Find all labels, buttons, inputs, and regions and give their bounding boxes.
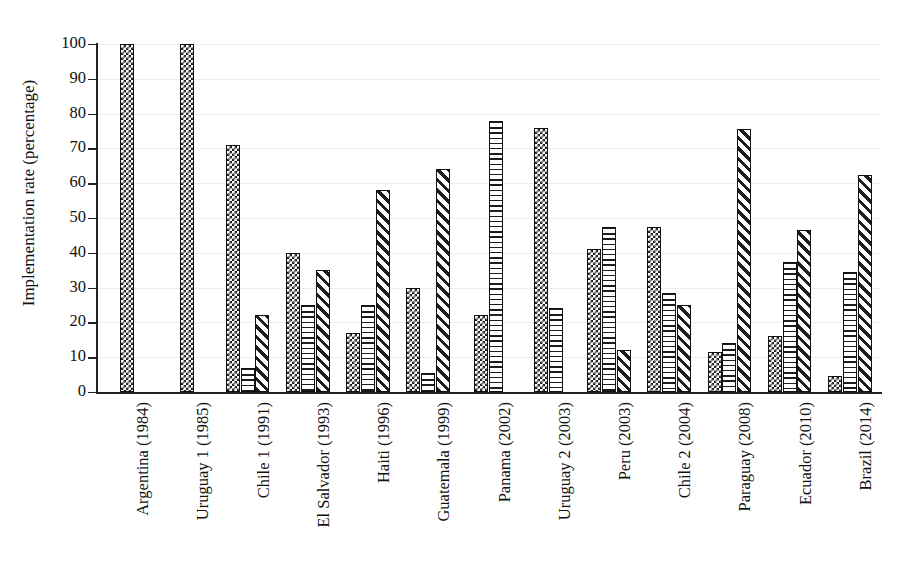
bar <box>843 272 857 392</box>
y-tick-label: 70 <box>40 137 86 157</box>
y-tick-label: 100 <box>40 33 86 53</box>
bar <box>662 293 676 392</box>
y-axis-tick-labels: 0102030405060708090100 <box>12 44 86 392</box>
y-tick-mark <box>88 114 97 115</box>
bar <box>768 336 782 392</box>
bar <box>858 175 872 393</box>
bar <box>737 129 751 392</box>
bar <box>421 373 435 392</box>
y-tick-mark <box>88 392 97 393</box>
bar-group <box>647 44 691 392</box>
bar-group <box>768 44 812 392</box>
bar-group <box>180 44 194 392</box>
bar <box>180 44 194 392</box>
x-tick-label: Argentina (1984) <box>133 402 153 516</box>
bar <box>316 270 330 392</box>
x-tick-label: Haiti (1996) <box>374 402 394 483</box>
bar <box>120 44 134 392</box>
bar-group <box>534 44 563 392</box>
bar <box>677 305 691 392</box>
bar <box>241 368 255 392</box>
y-tick-mark <box>88 218 97 219</box>
bar <box>797 230 811 392</box>
x-tick-label: Chile 1 (1991) <box>254 402 274 498</box>
plot-area <box>97 44 880 392</box>
bar <box>617 350 631 392</box>
y-tick-label: 10 <box>40 346 86 366</box>
bar <box>406 288 420 392</box>
y-tick-label: 50 <box>40 207 86 227</box>
y-tick-mark <box>88 44 97 45</box>
bar-group <box>286 44 330 392</box>
bar <box>286 253 300 392</box>
bar-group <box>828 44 872 392</box>
bar <box>346 333 360 392</box>
x-tick-label: Paraguay (2008) <box>735 402 755 512</box>
bar <box>474 315 488 392</box>
bar <box>534 128 548 392</box>
bar-group <box>587 44 631 392</box>
y-tick-mark <box>88 288 97 289</box>
x-tick-label: Peru (2003) <box>615 402 635 480</box>
bar <box>489 121 503 392</box>
y-tick-label: 30 <box>40 277 86 297</box>
bar-group <box>474 44 503 392</box>
x-tick-label: El Salvador (1993) <box>314 402 334 528</box>
bar <box>361 305 375 392</box>
y-tick-mark <box>88 253 97 254</box>
bar <box>783 262 797 393</box>
bar <box>255 315 269 392</box>
y-tick-mark <box>88 322 97 323</box>
bar-group <box>708 44 752 392</box>
bar <box>722 343 736 392</box>
y-tick-label: 80 <box>40 103 86 123</box>
chart-title <box>0 0 897 5</box>
y-tick-mark <box>88 79 97 80</box>
bar-group <box>226 44 270 392</box>
bar <box>828 376 842 392</box>
y-tick-label: 0 <box>40 381 86 401</box>
bar <box>549 308 563 392</box>
bar-group <box>346 44 390 392</box>
x-tick-label: Uruguay 1 (1985) <box>193 402 213 520</box>
y-tick-label: 60 <box>40 172 86 192</box>
bar <box>226 145 240 392</box>
x-tick-label: Guatemala (1999) <box>434 402 454 522</box>
bar <box>301 305 315 392</box>
y-tick-label: 20 <box>40 311 86 331</box>
y-tick-label: 40 <box>40 242 86 262</box>
x-tick-label: Brazil (2014) <box>856 402 876 490</box>
y-tick-mark <box>88 357 97 358</box>
bar-group <box>406 44 450 392</box>
y-tick-mark <box>88 183 97 184</box>
y-tick-mark <box>88 148 97 149</box>
bar <box>436 169 450 392</box>
bar <box>376 190 390 392</box>
x-tick-label: Chile 2 (2004) <box>675 402 695 498</box>
bar-group <box>120 44 134 392</box>
bar <box>708 352 722 392</box>
bar <box>587 249 601 392</box>
bar <box>647 227 661 392</box>
y-tick-label: 90 <box>40 68 86 88</box>
bar <box>602 227 616 392</box>
x-tick-label: Panama (2002) <box>495 402 515 502</box>
x-tick-label: Uruguay 2 (2003) <box>555 402 575 520</box>
chart-figure: Implementation rate (percentage) 0102030… <box>0 0 897 587</box>
x-tick-label: Ecuador (2010) <box>796 402 816 505</box>
x-axis-line <box>96 392 882 394</box>
